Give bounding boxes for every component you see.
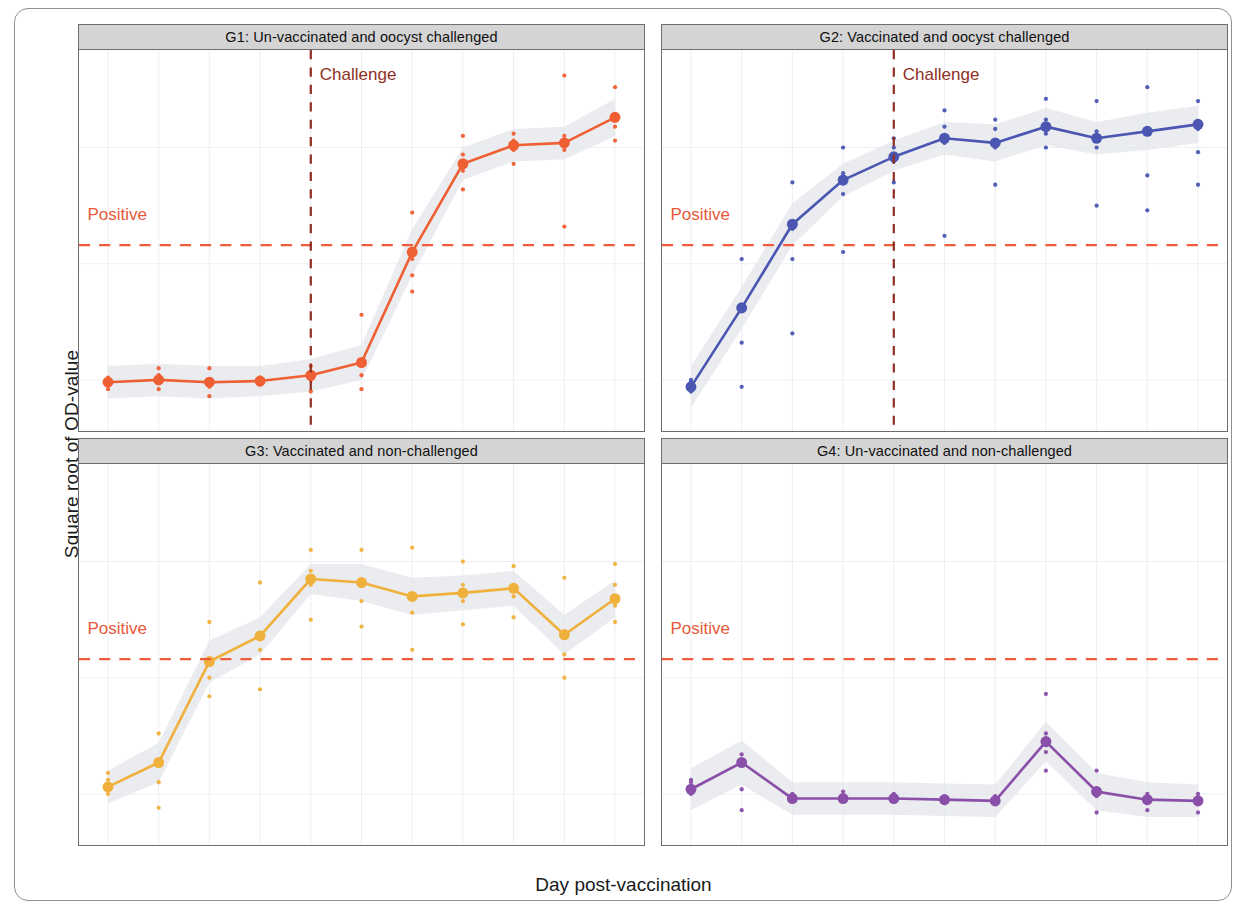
raw-data-point	[511, 615, 515, 619]
x-tick-mark	[310, 845, 312, 846]
raw-data-point	[410, 273, 414, 277]
raw-data-point	[511, 131, 515, 135]
raw-data-point	[309, 548, 313, 552]
raw-data-point	[258, 687, 262, 691]
raw-data-point	[258, 580, 262, 584]
panel-g2: G2: Vaccinated and oocyst challenged Pos…	[661, 24, 1228, 432]
raw-data-point	[258, 648, 262, 652]
mean-marker	[559, 629, 570, 640]
raw-data-point	[207, 694, 211, 698]
mean-marker	[787, 219, 798, 230]
raw-data-point	[740, 752, 744, 756]
raw-data-point	[841, 250, 845, 254]
raw-data-point	[359, 313, 363, 317]
raw-data-point	[207, 366, 211, 370]
raw-data-point	[790, 331, 794, 335]
x-ticks-g4: 07142128354249566370	[662, 845, 1227, 846]
raw-data-point	[359, 548, 363, 552]
raw-data-point	[511, 594, 515, 598]
raw-data-point	[461, 622, 465, 626]
mean-marker	[103, 781, 114, 792]
raw-data-point	[157, 806, 161, 810]
mean-marker	[1193, 795, 1204, 806]
x-tick-mark	[842, 845, 844, 846]
raw-data-point	[1196, 183, 1200, 187]
raw-data-point	[1094, 769, 1098, 773]
raw-data-point	[359, 387, 363, 391]
raw-data-point	[562, 676, 566, 680]
raw-data-point	[461, 599, 465, 603]
x-ticks-g3: 07142128354249566370	[79, 845, 644, 846]
x-tick-mark	[944, 845, 946, 846]
raw-data-point	[1044, 145, 1048, 149]
raw-data-point	[1094, 810, 1098, 814]
raw-data-point	[461, 583, 465, 587]
x-tick-mark	[564, 845, 566, 846]
raw-data-point	[359, 624, 363, 628]
raw-data-point	[1196, 810, 1200, 814]
mean-marker	[508, 140, 519, 151]
raw-data-point	[1094, 145, 1098, 149]
panel-g3: G3: Vaccinated and non-challenged 0.00.5…	[78, 438, 645, 846]
mean-marker	[1142, 794, 1153, 805]
mean-marker	[939, 133, 950, 144]
mean-marker	[457, 158, 468, 169]
x-tick-mark	[690, 845, 692, 846]
mean-marker	[204, 656, 215, 667]
raw-data-point	[613, 583, 617, 587]
raw-data-point	[1196, 150, 1200, 154]
mean-marker	[736, 757, 747, 768]
mean-marker	[736, 302, 747, 313]
raw-data-point	[790, 257, 794, 261]
raw-data-point	[993, 127, 997, 131]
raw-data-point	[942, 234, 946, 238]
raw-data-point	[410, 210, 414, 214]
plot-area-g2: PositiveChallenge	[661, 50, 1228, 432]
mean-marker	[990, 137, 1001, 148]
x-tick-mark	[411, 845, 413, 846]
mean-marker	[686, 381, 697, 392]
raw-data-point	[740, 341, 744, 345]
raw-data-point	[157, 366, 161, 370]
raw-data-point	[309, 618, 313, 622]
raw-data-point	[207, 676, 211, 680]
panel-g1: G1: Un-vaccinated and oocyst challenged …	[78, 24, 645, 432]
raw-data-point	[1196, 99, 1200, 103]
panel-title-g4: G4: Un-vaccinated and non-challenged	[661, 438, 1228, 464]
raw-data-point	[207, 620, 211, 624]
mean-marker	[1040, 121, 1051, 132]
raw-data-point	[410, 611, 414, 615]
plot-svg-g1	[79, 50, 644, 431]
raw-data-point	[613, 562, 617, 566]
x-tick-mark	[209, 845, 211, 846]
raw-data-point	[511, 162, 515, 166]
raw-data-point	[207, 394, 211, 398]
raw-data-point	[562, 73, 566, 77]
mean-marker	[204, 377, 215, 388]
raw-data-point	[461, 187, 465, 191]
raw-data-point	[1044, 769, 1048, 773]
raw-data-point	[410, 545, 414, 549]
raw-data-point	[1145, 85, 1149, 89]
x-tick-mark	[107, 845, 109, 846]
raw-data-point	[613, 85, 617, 89]
raw-data-point	[1145, 808, 1149, 812]
raw-data-point	[461, 152, 465, 156]
x-tick-mark	[1096, 845, 1098, 846]
mean-marker	[153, 374, 164, 385]
x-axis-label: Day post-vaccination	[0, 874, 1247, 896]
x-tick-mark	[361, 845, 363, 846]
raw-data-point	[993, 183, 997, 187]
raw-data-point	[740, 808, 744, 812]
raw-data-point	[942, 125, 946, 129]
mean-marker	[356, 577, 367, 588]
mean-marker	[457, 587, 468, 598]
x-tick-mark	[994, 845, 996, 846]
mean-marker	[686, 784, 697, 795]
mean-marker	[255, 630, 266, 641]
raw-data-point	[790, 180, 794, 184]
raw-data-point	[157, 387, 161, 391]
raw-data-point	[562, 652, 566, 656]
mean-marker	[888, 793, 899, 804]
raw-data-point	[157, 731, 161, 735]
